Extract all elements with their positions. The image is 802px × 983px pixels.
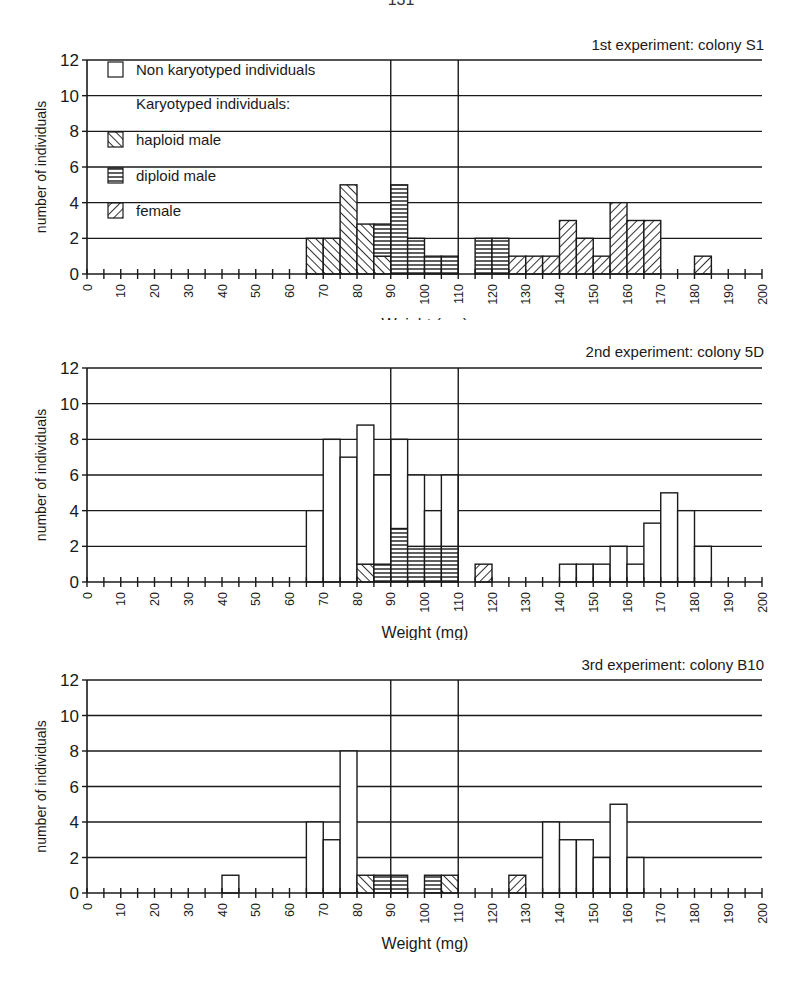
x-tick-label: 120 xyxy=(486,903,500,924)
bar-non xyxy=(576,840,593,893)
x-tick-label: 20 xyxy=(148,903,162,917)
y-tick-label: 2 xyxy=(70,849,79,868)
bar-non xyxy=(543,822,560,893)
bar-hap xyxy=(441,875,458,893)
x-axis-label: Weight (mg) xyxy=(382,935,469,952)
y-tick-label: 12 xyxy=(60,671,79,690)
histogram-plot: 0246810120102030405060708090100110120130… xyxy=(0,0,802,983)
x-tick-label: 150 xyxy=(587,903,601,924)
gridlines xyxy=(87,680,762,858)
bar-dip xyxy=(391,875,408,893)
bar-non xyxy=(610,804,627,893)
bar-dip xyxy=(374,875,391,893)
x-tick-label: 200 xyxy=(756,903,770,924)
x-tick-label: 170 xyxy=(654,903,668,924)
x-tick-label: 50 xyxy=(249,903,263,917)
x-tick-label: 40 xyxy=(216,903,230,917)
chart-colony-b10: 3rd experiment: colony B10 0246810120102… xyxy=(0,0,802,983)
bar-non xyxy=(222,875,239,893)
x-tick-label: 190 xyxy=(722,903,736,924)
y-tick-label: 8 xyxy=(70,742,79,761)
bar-non xyxy=(560,840,577,893)
x-tick-label: 70 xyxy=(317,903,331,917)
bar-non xyxy=(306,822,323,893)
x-tick-label: 100 xyxy=(418,903,432,924)
y-tick-label: 10 xyxy=(60,707,79,726)
x-tick-label: 180 xyxy=(688,903,702,924)
x-tick-label: 130 xyxy=(519,903,533,924)
bar-non xyxy=(593,858,610,894)
y-tick-label: 4 xyxy=(70,813,79,832)
bar-non xyxy=(340,751,357,893)
bar-non xyxy=(323,840,340,893)
x-tick-label: 160 xyxy=(621,903,635,924)
x-tick-label: 30 xyxy=(182,903,196,917)
x-tick-label: 60 xyxy=(283,903,297,917)
x-tick-label: 110 xyxy=(452,903,466,923)
bar-hap xyxy=(357,875,374,893)
x-tick-label: 140 xyxy=(553,903,567,924)
x-tick-label: 0 xyxy=(81,903,95,910)
x-tick-label: 80 xyxy=(351,903,365,917)
bar-fem xyxy=(509,875,526,893)
bar-non xyxy=(627,858,644,894)
y-tick-label: 6 xyxy=(70,778,79,797)
y-axis-label: number of individuals xyxy=(33,720,49,852)
x-tick-label: 90 xyxy=(384,903,398,917)
x-tick-label: 10 xyxy=(114,903,128,917)
bar-dip xyxy=(425,875,442,893)
y-tick-label: 0 xyxy=(70,884,79,903)
